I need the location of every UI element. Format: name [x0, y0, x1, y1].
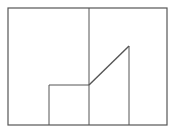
diagram-background	[0, 0, 172, 133]
line-diagram	[0, 0, 172, 133]
